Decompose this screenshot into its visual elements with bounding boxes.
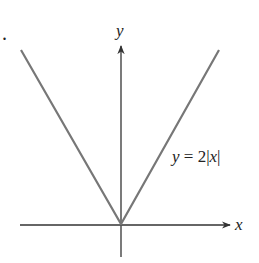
abs-value-curve bbox=[21, 50, 219, 224]
problem-marker: . bbox=[2, 22, 7, 44]
eq-y: y bbox=[170, 147, 180, 166]
eq-equals: = 2 bbox=[180, 147, 207, 166]
graph-canvas: . x y y = 2|x| bbox=[0, 0, 259, 263]
y-axis-label: y bbox=[114, 21, 124, 40]
eq-bar-close: | bbox=[217, 147, 220, 166]
equation-label: y = 2|x| bbox=[170, 147, 221, 166]
x-axis-label: x bbox=[234, 215, 243, 234]
